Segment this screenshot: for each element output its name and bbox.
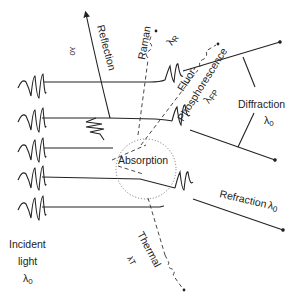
incident-wave-packets	[18, 74, 46, 220]
incident-label-line1: Incident	[9, 238, 46, 250]
absorption-zone	[116, 139, 176, 199]
fluor-arrowhead	[217, 43, 220, 46]
beam-5	[42, 206, 164, 207]
reflection-lambda: λ0	[68, 47, 77, 56]
reflection-label: Reflection	[95, 23, 119, 71]
raman-arrowhead	[155, 30, 158, 33]
diffraction-label: Diffraction	[238, 98, 285, 110]
thermal-wave-small	[165, 255, 183, 289]
raman-lambda-label: λR	[163, 31, 181, 48]
incident-lambda-label: λ0	[23, 272, 33, 286]
thermal-label: Thermal	[135, 229, 164, 269]
thermal-lambda-label: λT	[125, 255, 137, 267]
diffraction-pointer-lower	[238, 113, 254, 147]
incident-wave-1	[18, 74, 46, 98]
raman-ray	[138, 60, 148, 135]
incident-wave-5	[18, 196, 46, 220]
beam-1	[44, 80, 165, 82]
diffraction-pointer-upper	[243, 57, 255, 87]
incident-label-line2: light	[18, 255, 37, 267]
raman-label: Raman	[135, 25, 153, 61]
beam-4	[42, 177, 175, 188]
diffraction-lambda-label: λ0	[264, 114, 274, 128]
absorption-dash-2	[118, 166, 143, 174]
diffraction-lower-ray	[190, 130, 275, 160]
refraction-wave	[175, 172, 193, 190]
incident-wave-2	[18, 108, 46, 132]
reflection-wave	[86, 118, 104, 140]
diffraction-upper-ray	[183, 42, 280, 71]
light-interaction-diagram: Reflection λ0 Raman λR Fluor- Phosphores…	[0, 0, 306, 298]
absorption-label: Absorption	[118, 154, 168, 166]
incident-wave-3	[18, 138, 46, 162]
thermal-arrowhead	[183, 289, 186, 292]
incident-wave-4	[18, 166, 46, 190]
